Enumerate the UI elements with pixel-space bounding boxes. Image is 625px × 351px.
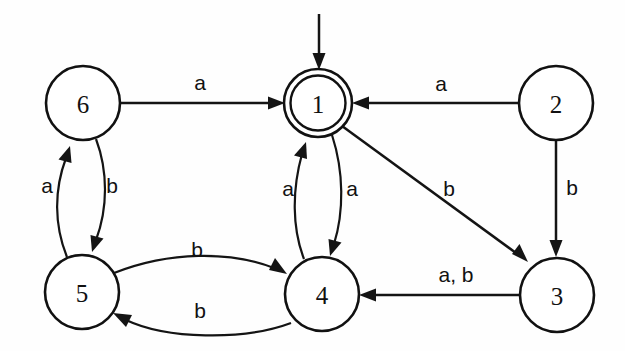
transition-5-to-4[interactable]: b bbox=[114, 238, 287, 275]
transition-label-5-to-6: a bbox=[41, 174, 53, 197]
transition-label-3-to-4: a, b bbox=[438, 263, 473, 286]
transition-1-to-3[interactable]: b bbox=[342, 126, 528, 262]
transition-label-4-to-5: b bbox=[194, 299, 206, 322]
state-label-3: 3 bbox=[551, 283, 564, 310]
transition-label-2-to-1: a bbox=[435, 72, 447, 95]
transition-2-to-1[interactable]: a bbox=[352, 72, 519, 110]
transition-label-5-to-4: b bbox=[191, 238, 203, 261]
transition-label-1-to-3: b bbox=[443, 177, 455, 200]
state-label-6: 6 bbox=[77, 91, 90, 118]
transition-2-to-3[interactable]: b bbox=[550, 140, 578, 257]
state-label-1: 1 bbox=[312, 91, 325, 118]
state-label-2: 2 bbox=[550, 91, 563, 118]
state-node-4[interactable]: 4 bbox=[285, 257, 359, 331]
fsm-diagram-canvas: a a a b a a bbox=[0, 0, 625, 351]
state-label-5: 5 bbox=[76, 280, 89, 307]
transition-3-to-4[interactable]: a, b bbox=[359, 263, 520, 302]
transition-label-6-to-1: a bbox=[194, 71, 206, 94]
state-node-2[interactable]: 2 bbox=[519, 66, 593, 140]
transition-label-1-to-4: a bbox=[346, 177, 358, 200]
transition-4-to-5[interactable]: b bbox=[113, 299, 291, 336]
state-node-5[interactable]: 5 bbox=[45, 255, 119, 329]
transition-label-4-to-1: a bbox=[282, 177, 294, 200]
transition-4-to-1[interactable]: a bbox=[282, 142, 307, 259]
state-label-4: 4 bbox=[316, 282, 329, 309]
state-node-6[interactable]: 6 bbox=[46, 66, 120, 140]
transition-label-2-to-3: b bbox=[566, 176, 578, 199]
state-node-3[interactable]: 3 bbox=[520, 258, 594, 332]
transition-label-6-to-5: b bbox=[106, 174, 118, 197]
transition-6-to-5[interactable]: b bbox=[91, 139, 118, 252]
fsm-svg-root: a a a b a a bbox=[0, 0, 625, 351]
state-node-1[interactable]: 1 bbox=[284, 69, 352, 137]
transition-6-to-1[interactable]: a bbox=[120, 71, 285, 110]
transition-5-to-6[interactable]: a bbox=[41, 146, 71, 257]
start-arrow bbox=[313, 14, 326, 70]
transition-1-to-4[interactable]: a bbox=[329, 135, 359, 256]
